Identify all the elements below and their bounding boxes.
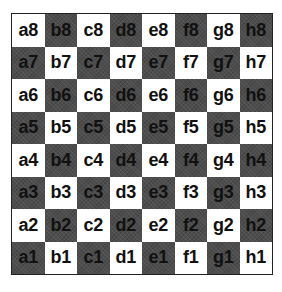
square-g5: g5 [207,112,240,145]
square-h4: h4 [240,144,273,177]
square-h2: h2 [240,209,273,242]
square-e4: e4 [142,144,175,177]
square-e7: e7 [142,47,175,80]
square-f6: f6 [175,79,208,112]
square-a3: a3 [12,177,45,210]
square-g1: g1 [207,242,240,275]
square-c4: c4 [77,144,110,177]
square-c5: c5 [77,112,110,145]
square-d4: d4 [110,144,143,177]
square-b3: b3 [45,177,78,210]
square-f1: f1 [175,242,208,275]
square-c1: c1 [77,242,110,275]
square-c6: c6 [77,79,110,112]
square-c2: c2 [77,209,110,242]
square-a4: a4 [12,144,45,177]
square-g2: g2 [207,209,240,242]
square-b1: b1 [45,242,78,275]
square-e8: e8 [142,14,175,47]
square-c7: c7 [77,47,110,80]
square-h8: h8 [240,14,273,47]
square-a7: a7 [12,47,45,80]
square-a2: a2 [12,209,45,242]
square-d7: d7 [110,47,143,80]
square-a6: a6 [12,79,45,112]
square-e3: e3 [142,177,175,210]
square-a8: a8 [12,14,45,47]
chessboard: a8b8c8d8e8f8g8h8a7b7c7d7e7f7g7h7a6b6c6d6… [11,13,273,275]
square-e5: e5 [142,112,175,145]
square-b6: b6 [45,79,78,112]
square-c8: c8 [77,14,110,47]
square-b8: b8 [45,14,78,47]
square-g3: g3 [207,177,240,210]
square-f8: f8 [175,14,208,47]
square-d1: d1 [110,242,143,275]
square-f5: f5 [175,112,208,145]
square-e6: e6 [142,79,175,112]
square-g4: g4 [207,144,240,177]
square-a1: a1 [12,242,45,275]
square-f4: f4 [175,144,208,177]
square-b2: b2 [45,209,78,242]
square-f7: f7 [175,47,208,80]
square-h1: h1 [240,242,273,275]
square-h6: h6 [240,79,273,112]
square-c3: c3 [77,177,110,210]
square-f2: f2 [175,209,208,242]
square-b4: b4 [45,144,78,177]
square-d8: d8 [110,14,143,47]
square-d2: d2 [110,209,143,242]
square-h3: h3 [240,177,273,210]
square-d3: d3 [110,177,143,210]
square-b5: b5 [45,112,78,145]
square-b7: b7 [45,47,78,80]
square-e2: e2 [142,209,175,242]
square-d6: d6 [110,79,143,112]
square-a5: a5 [12,112,45,145]
square-g8: g8 [207,14,240,47]
square-h5: h5 [240,112,273,145]
square-e1: e1 [142,242,175,275]
square-g7: g7 [207,47,240,80]
square-h7: h7 [240,47,273,80]
square-g6: g6 [207,79,240,112]
square-d5: d5 [110,112,143,145]
square-f3: f3 [175,177,208,210]
